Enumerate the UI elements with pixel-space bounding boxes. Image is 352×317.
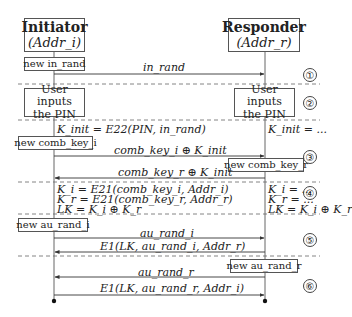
user-inputs-pin-responder-box: User inputs the PIN <box>234 88 295 117</box>
phase-4-marker: ④ <box>303 186 317 200</box>
phase-5-marker: ⑤ <box>303 233 317 247</box>
keys-initiator-line-3: LK = K_i ⊕ K_r <box>57 204 141 215</box>
kinit-responder-computation: K_init = ... <box>268 124 327 135</box>
message-e1-au-rand-i: E1(LK, au_rand_i, Addr_r) <box>100 241 245 252</box>
keys-responder-line-3: LK = K_i ⊕ K_r <box>268 204 352 215</box>
user-inputs-pin-initiator-label: User inputs the PIN <box>27 84 82 122</box>
responder-actor-box: Responder (Addr_r) <box>228 18 300 52</box>
new-comb-key-r-label: new comb_key_r <box>224 159 308 171</box>
message-comb-key-r: comb_key_r ⊕ K_init <box>118 167 232 178</box>
phase-3-marker: ③ <box>303 150 317 164</box>
user-inputs-pin-initiator-box: User inputs the PIN <box>24 88 85 117</box>
new-au-rand-i-label: new au_rand_i <box>16 219 89 231</box>
initiator-actor-box: Initiator (Addr_i) <box>24 18 85 52</box>
message-au-rand-r: au_rand_r <box>138 267 194 278</box>
message-in-rand: in_rand <box>143 62 185 73</box>
responder-address: (Addr_r) <box>236 36 291 51</box>
message-e1-au-rand-r: E1(LK, au_rand_r, Addr_i) <box>100 283 244 294</box>
user-inputs-pin-responder-label: User inputs the PIN <box>237 84 292 122</box>
new-in-rand-label: new in_rand <box>23 58 85 70</box>
message-comb-key-i: comb_key_i ⊕ K_init <box>114 145 227 156</box>
phase-2-marker: ② <box>303 96 317 110</box>
responder-title: Responder <box>222 19 306 35</box>
kinit-initiator-computation: K_init = E22(PIN, in_rand) <box>57 124 206 135</box>
new-in-rand-box: new in_rand <box>24 57 85 71</box>
initiator-title: Initiator <box>21 19 87 35</box>
new-au-rand-r-box: new au_rand_r <box>230 259 298 273</box>
phase-6-marker: ⑥ <box>303 279 317 293</box>
message-au-rand-i: au_rand_i <box>140 228 194 239</box>
new-au-rand-r-label: new au_rand_r <box>227 260 302 272</box>
responder-end-dot <box>263 299 267 303</box>
initiator-end-dot <box>52 299 56 303</box>
new-comb-key-r-box: new comb_key_r <box>228 158 304 172</box>
initiator-address: (Addr_i) <box>28 36 81 51</box>
new-comb-key-i-box: new comb_key_i <box>18 136 93 150</box>
new-comb-key-i-label: new comb_key_i <box>14 137 96 149</box>
phase-1-marker: ① <box>303 68 317 82</box>
new-au-rand-i-box: new au_rand_i <box>18 218 88 232</box>
